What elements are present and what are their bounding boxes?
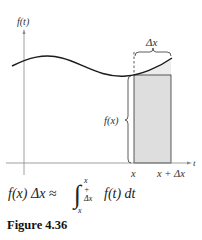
x-tick-right: x + Δx [156, 168, 185, 179]
lower-limit: x [78, 206, 82, 215]
integrand: f(t) dt [104, 186, 136, 202]
x-axis-arrow-icon [187, 162, 192, 165]
delta-x-brace [135, 48, 171, 56]
formula: f(x) Δx ≈ ∫ x + Δx x f(t) dt [8, 186, 57, 202]
approximating-rectangle [134, 75, 171, 163]
y-axis-label: f(t) [17, 16, 30, 28]
y-axis-arrow-icon [23, 29, 26, 34]
x-tick-left: x [130, 168, 136, 179]
height-label: f(x) [104, 115, 119, 127]
integral-approximation-diagram: Δx f(x) f(t) t x x + Δx [0, 0, 202, 240]
figure-caption: Figure 4.36 [7, 218, 67, 233]
height-brace [125, 76, 131, 163]
upper-limit: x + Δx [84, 176, 92, 203]
x-axis-label: t [193, 158, 196, 168]
formula-lhs: f(x) Δx ≈ [8, 186, 57, 201]
delta-x-label: Δx [145, 36, 157, 48]
